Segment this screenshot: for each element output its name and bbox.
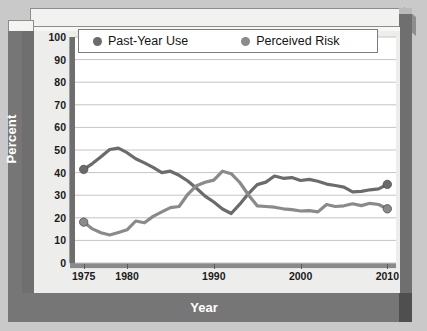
x-axis-tick-mark: [214, 264, 215, 269]
legend-item-past-year-use[interactable]: Past-Year Use: [93, 34, 188, 48]
y-axis-tick-label: 70: [36, 99, 66, 111]
x-axis-tick-label: 1980: [107, 270, 147, 282]
x-axis-tick-mark: [84, 264, 85, 269]
y-axis-tick-label: 90: [36, 54, 66, 66]
legend-label: Past-Year Use: [108, 34, 188, 48]
series-endpoint-marker: [383, 180, 391, 188]
series-line-perceived-risk: [84, 171, 388, 235]
x-axis-tick-mark: [301, 264, 302, 269]
x-axis-tick-label: 1975: [64, 270, 104, 282]
legend-marker-icon: [93, 37, 102, 46]
x-axis-tick-label: 1990: [194, 270, 234, 282]
y-axis-tick-label: 10: [36, 234, 66, 246]
x-axis-tick-label: 2010: [367, 270, 407, 282]
chart-legend: Past-Year Use Perceived Risk: [78, 29, 378, 53]
x-axis-wall-bevel: [399, 293, 412, 322]
chart-root: Percent 1009080706050403020100 197519801…: [0, 0, 427, 331]
y-axis-tick-label: 0: [36, 257, 66, 269]
y-axis-tick-label: 60: [36, 121, 66, 133]
series-endpoint-marker: [80, 165, 88, 173]
legend-marker-icon: [241, 37, 250, 46]
y-axis-tick-label: 80: [36, 76, 66, 88]
y-axis-tick-label: 40: [36, 167, 66, 179]
series-line-past-year-use: [84, 148, 388, 213]
legend-item-perceived-risk[interactable]: Perceived Risk: [241, 34, 339, 48]
x-axis-tick-mark: [127, 264, 128, 269]
y-axis-tick-label: 50: [36, 144, 66, 156]
x-axis-title: Year: [8, 298, 400, 318]
y-axis-tick-label: 20: [36, 212, 66, 224]
y-axis-tick-label: 100: [36, 31, 66, 43]
series-endpoint-marker: [80, 218, 88, 226]
legend-label: Perceived Risk: [256, 34, 339, 48]
y-axis-tick-label: 30: [36, 189, 66, 201]
x-axis-tick-label: 2000: [281, 270, 321, 282]
series-endpoint-marker: [383, 205, 391, 213]
x-axis-tick-mark: [387, 264, 388, 269]
